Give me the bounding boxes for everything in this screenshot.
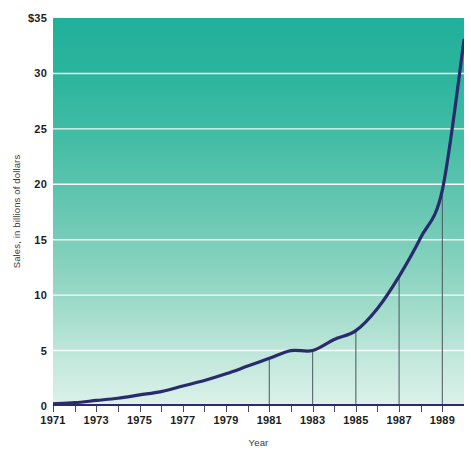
x-axis-tick: [399, 406, 400, 412]
x-axis-tick: [356, 406, 357, 412]
sales-growth-chart: Sales, in billions of dollars $353025201…: [0, 0, 471, 459]
x-axis-tick-label: 1981: [246, 414, 292, 426]
x-axis-tick: [442, 406, 443, 412]
x-axis-tick: [96, 406, 97, 412]
x-axis-tick: [269, 406, 270, 412]
x-axis-tick-label: 1973: [73, 414, 119, 426]
x-axis-tick: [421, 406, 422, 412]
x-axis-tick: [75, 406, 76, 412]
x-axis-tick-label: 1979: [203, 414, 249, 426]
x-axis-tick: [226, 406, 227, 412]
x-axis-tick: [334, 406, 335, 412]
x-axis-tick: [53, 406, 54, 412]
x-axis-tick: [377, 406, 378, 412]
x-axis-tick: [248, 406, 249, 412]
x-axis-tick: [313, 406, 314, 412]
x-axis-tick: [161, 406, 162, 412]
x-axis-tick-label: 1971: [30, 414, 76, 426]
x-axis-tick: [140, 406, 141, 412]
x-axis-tick-label: 1975: [117, 414, 163, 426]
x-axis-tick-label: 1987: [376, 414, 422, 426]
x-axis-tick: [118, 406, 119, 412]
x-axis-tick: [291, 406, 292, 412]
x-axis-tick-label: 1977: [160, 414, 206, 426]
x-axis-tick-label: 1989: [419, 414, 465, 426]
x-axis-tick: [204, 406, 205, 412]
x-axis-tick-label: 1983: [290, 414, 336, 426]
x-axis-tick: [183, 406, 184, 412]
x-axis-title: Year: [53, 437, 464, 448]
x-axis-tick-label: 1985: [333, 414, 379, 426]
x-axis-ticks: 1971197319751977197919811983198519871989: [0, 0, 471, 459]
